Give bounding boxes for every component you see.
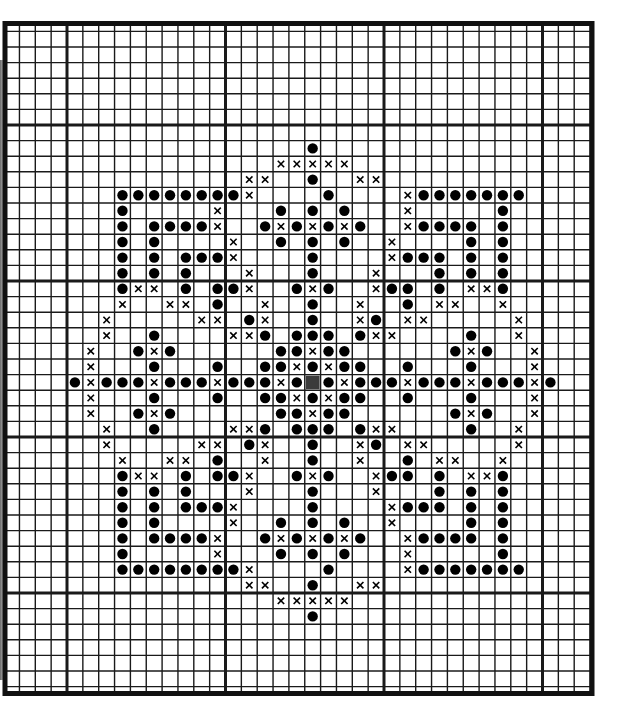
dot-stitch-icon [117, 190, 127, 200]
dot-stitch-icon [260, 377, 270, 387]
dot-stitch-icon [434, 533, 444, 543]
dot-stitch-icon [498, 564, 508, 574]
cross-stitch-icon [278, 379, 284, 385]
cross-stitch-icon [214, 535, 220, 541]
dot-stitch-icon [307, 206, 317, 216]
cross-stitch-icon [389, 504, 395, 510]
cross-stitch-icon [325, 598, 331, 604]
dot-stitch-icon [434, 377, 444, 387]
dot-stitch-icon [323, 221, 333, 231]
dot-stitch-icon [498, 237, 508, 247]
cross-stitch-icon [151, 379, 157, 385]
dot-stitch-icon [545, 377, 555, 387]
cross-stitch-icon [214, 317, 220, 323]
dot-stitch-icon [498, 518, 508, 528]
dot-stitch-icon [165, 346, 175, 356]
dot-stitch-icon [450, 377, 460, 387]
dot-stitch-icon [482, 408, 492, 418]
cross-stitch-icon [151, 410, 157, 416]
dot-stitch-icon [197, 252, 207, 262]
dot-stitch-icon [149, 424, 159, 434]
dot-stitch-icon [228, 284, 238, 294]
dot-stitch-icon [307, 549, 317, 559]
cross-stitch-icon [246, 176, 252, 182]
dot-stitch-icon [307, 611, 317, 621]
dot-stitch-icon [498, 206, 508, 216]
dot-stitch-icon [434, 190, 444, 200]
cross-stitch-icon [230, 504, 236, 510]
cross-stitch-icon [452, 301, 458, 307]
cross-stitch-icon [167, 457, 173, 463]
cross-stitch-icon [373, 270, 379, 276]
dot-stitch-icon [450, 346, 460, 356]
cross-stitch-icon [389, 520, 395, 526]
dot-stitch-icon [181, 377, 191, 387]
dot-stitch-icon [355, 393, 365, 403]
dot-stitch-icon [292, 221, 302, 231]
dot-stitch-icon [434, 486, 444, 496]
cross-stitch-icon [309, 348, 315, 354]
cross-stitch-icon [294, 364, 300, 370]
cross-stitch-icon [341, 223, 347, 229]
dot-stitch-icon [117, 221, 127, 231]
dot-stitch-icon [117, 471, 127, 481]
dot-stitch-icon [133, 408, 143, 418]
dot-stitch-icon [498, 268, 508, 278]
dot-stitch-icon [117, 486, 127, 496]
cross-stitch-icon [389, 332, 395, 338]
cross-stitch-icon [278, 598, 284, 604]
cross-stitch-icon [103, 317, 109, 323]
dot-stitch-icon [149, 486, 159, 496]
dot-stitch-icon [514, 377, 524, 387]
dot-stitch-icon [292, 471, 302, 481]
dot-stitch-icon [117, 252, 127, 262]
dot-stitch-icon [339, 549, 349, 559]
cross-stitch-icon [516, 332, 522, 338]
dot-stitch-icon [466, 393, 476, 403]
dot-stitch-icon [181, 471, 191, 481]
cross-stitch-icon [325, 395, 331, 401]
dot-stitch-icon [165, 377, 175, 387]
cross-stitch-icon [309, 535, 315, 541]
cross-stitch-icon [341, 535, 347, 541]
cross-stitch-icon [103, 442, 109, 448]
cross-stitch-icon [262, 301, 268, 307]
dot-stitch-icon [276, 346, 286, 356]
cross-stitch-icon [151, 348, 157, 354]
cross-stitch-icon [500, 301, 506, 307]
dot-stitch-icon [450, 190, 460, 200]
cross-stitch-icon [230, 254, 236, 260]
cross-stitch-icon [246, 192, 252, 198]
dot-stitch-icon [292, 533, 302, 543]
cross-stitch-icon [309, 161, 315, 167]
dot-stitch-icon [403, 471, 413, 481]
dot-stitch-icon [339, 346, 349, 356]
dot-stitch-icon [466, 518, 476, 528]
cross-stitch-icon [103, 332, 109, 338]
cross-stitch-icon [119, 301, 125, 307]
dot-stitch-icon [212, 299, 222, 309]
dot-stitch-icon [307, 237, 317, 247]
dot-stitch-icon [117, 518, 127, 528]
cross-stitch-icon [262, 457, 268, 463]
dot-stitch-icon [355, 330, 365, 340]
dot-stitch-icon [70, 377, 80, 387]
dot-stitch-icon [117, 377, 127, 387]
cross-stitch-icon [405, 223, 411, 229]
center-marker-icon [306, 376, 320, 390]
dot-stitch-icon [434, 268, 444, 278]
dot-stitch-icon [181, 268, 191, 278]
cross-stitch-icon [246, 426, 252, 432]
cross-stitch-icon [135, 286, 141, 292]
dot-stitch-icon [307, 455, 317, 465]
dot-stitch-icon [434, 502, 444, 512]
dot-stitch-icon [323, 284, 333, 294]
dot-stitch-icon [117, 502, 127, 512]
dot-stitch-icon [292, 424, 302, 434]
dot-stitch-icon [228, 377, 238, 387]
dot-stitch-icon [181, 486, 191, 496]
cross-stitch-icon [357, 317, 363, 323]
dot-stitch-icon [228, 190, 238, 200]
cross-stitch-icon [373, 473, 379, 479]
cross-stitch-icon [230, 332, 236, 338]
